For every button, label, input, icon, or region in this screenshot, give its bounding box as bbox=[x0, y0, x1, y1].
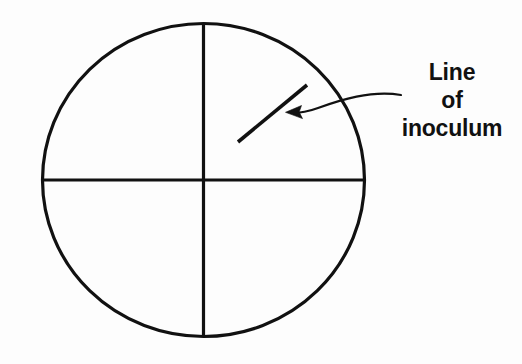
line-of-inoculum-label: Line of inoculum bbox=[385, 58, 519, 142]
figure-canvas: Line of inoculum bbox=[0, 0, 522, 364]
label-line-3: inoculum bbox=[385, 114, 519, 142]
label-line-1: Line bbox=[385, 58, 519, 86]
label-line-2: of bbox=[385, 86, 519, 114]
petri-dish-diagram bbox=[0, 0, 522, 364]
